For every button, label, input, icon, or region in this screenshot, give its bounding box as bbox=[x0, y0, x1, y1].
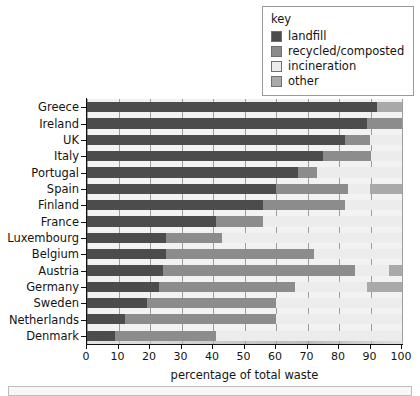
y-tick bbox=[81, 124, 86, 125]
bar-segment-landfill bbox=[87, 184, 276, 194]
x-tick bbox=[401, 344, 402, 349]
bar-row bbox=[87, 132, 402, 148]
bar-row bbox=[87, 164, 402, 180]
bar-segment-incineration bbox=[317, 167, 402, 177]
stacked-bar bbox=[87, 249, 402, 259]
y-tick bbox=[81, 205, 86, 206]
y-tick bbox=[81, 156, 86, 157]
category-label-netherlands: Netherlands bbox=[1, 314, 79, 326]
y-tick bbox=[81, 238, 86, 239]
bar-row bbox=[87, 295, 402, 311]
x-tick bbox=[118, 344, 119, 349]
stacked-bar bbox=[87, 102, 402, 112]
y-tick bbox=[81, 107, 86, 108]
bar-segment-landfill bbox=[87, 233, 166, 243]
stacked-bar bbox=[87, 167, 402, 177]
x-tick bbox=[212, 344, 213, 349]
stacked-bar bbox=[87, 331, 402, 341]
legend-label-incineration: incineration bbox=[288, 60, 356, 73]
bar-row bbox=[87, 197, 402, 213]
bar-segment-other bbox=[389, 265, 402, 275]
plot-area bbox=[87, 99, 402, 344]
y-tick bbox=[81, 254, 86, 255]
gridline bbox=[402, 99, 403, 344]
y-tick bbox=[81, 189, 86, 190]
stacked-bar bbox=[87, 200, 402, 210]
y-tick bbox=[81, 271, 86, 272]
bar-segment-landfill bbox=[87, 298, 147, 308]
y-tick bbox=[81, 222, 86, 223]
y-tick bbox=[81, 287, 86, 288]
legend-label-landfill: landfill bbox=[288, 30, 326, 43]
category-label-portugal: Portugal bbox=[1, 167, 79, 179]
category-labels: GreeceIrelandUKItalyPortugalSpainFinland… bbox=[0, 99, 79, 344]
bar-segment-incineration bbox=[276, 314, 402, 324]
x-tick-label: 20 bbox=[134, 350, 164, 363]
y-axis-line bbox=[86, 98, 87, 345]
y-tick bbox=[81, 320, 86, 321]
stacked-bar bbox=[87, 151, 402, 161]
bar-segment-incineration bbox=[222, 233, 402, 243]
category-label-france: France bbox=[1, 216, 79, 228]
category-label-germany: Germany bbox=[1, 281, 79, 293]
x-tick-label: 80 bbox=[323, 350, 353, 363]
bar-segment-recycled-composted bbox=[166, 233, 223, 243]
x-axis-line bbox=[86, 344, 403, 345]
bar-row bbox=[87, 181, 402, 197]
bar-segment-recycled-composted bbox=[159, 282, 294, 292]
bar-segment-recycled-composted bbox=[345, 135, 370, 145]
bar-row bbox=[87, 246, 402, 262]
bar-segment-recycled-composted bbox=[125, 314, 276, 324]
y-tick bbox=[81, 173, 86, 174]
x-tick bbox=[307, 344, 308, 349]
bar-segment-landfill bbox=[87, 167, 298, 177]
legend-swatch-landfill bbox=[271, 31, 282, 42]
x-tick bbox=[275, 344, 276, 349]
x-tick-label: 50 bbox=[229, 350, 259, 363]
bar-segment-landfill bbox=[87, 118, 367, 128]
x-tick-label: 100 bbox=[386, 350, 416, 363]
bar-segment-recycled-composted bbox=[276, 184, 348, 194]
x-tick bbox=[86, 344, 87, 349]
bar-segment-incineration bbox=[295, 282, 367, 292]
category-label-finland: Finland bbox=[1, 199, 79, 211]
bar-rows bbox=[87, 99, 402, 344]
bar-segment-landfill bbox=[87, 102, 377, 112]
x-tick-label: 60 bbox=[260, 350, 290, 363]
bar-segment-landfill bbox=[87, 151, 323, 161]
stacked-bar bbox=[87, 298, 402, 308]
bar-segment-recycled-composted bbox=[298, 167, 317, 177]
x-tick-label: 90 bbox=[355, 350, 385, 363]
x-tick bbox=[181, 344, 182, 349]
bar-segment-landfill bbox=[87, 216, 216, 226]
bar-segment-landfill bbox=[87, 282, 159, 292]
bar-segment-incineration bbox=[216, 331, 402, 341]
category-label-belgium: Belgium bbox=[1, 248, 79, 260]
bar-row bbox=[87, 213, 402, 229]
legend-swatch-other bbox=[271, 76, 282, 87]
x-tick bbox=[370, 344, 371, 349]
legend-item-landfill: landfill bbox=[271, 29, 407, 44]
bar-segment-recycled-composted bbox=[367, 118, 402, 128]
bar-segment-recycled-composted bbox=[147, 298, 276, 308]
legend-item-other: other bbox=[271, 74, 407, 89]
bar-row bbox=[87, 262, 402, 278]
bar-segment-incineration bbox=[348, 184, 370, 194]
bar-segment-other bbox=[377, 102, 402, 112]
bar-row bbox=[87, 230, 402, 246]
bar-segment-incineration bbox=[276, 298, 402, 308]
bar-segment-incineration bbox=[371, 151, 403, 161]
stacked-bar bbox=[87, 135, 402, 145]
x-tick bbox=[244, 344, 245, 349]
bar-segment-incineration bbox=[355, 265, 390, 275]
bar-segment-landfill bbox=[87, 314, 125, 324]
y-tick bbox=[81, 336, 86, 337]
bar-segment-landfill bbox=[87, 249, 166, 259]
bar-segment-landfill bbox=[87, 200, 263, 210]
bar-segment-recycled-composted bbox=[323, 151, 370, 161]
category-label-greece: Greece bbox=[1, 101, 79, 113]
bar-segment-landfill bbox=[87, 265, 163, 275]
x-tick-label: 30 bbox=[166, 350, 196, 363]
bar-segment-recycled-composted bbox=[163, 265, 355, 275]
category-label-spain: Spain bbox=[1, 183, 79, 195]
